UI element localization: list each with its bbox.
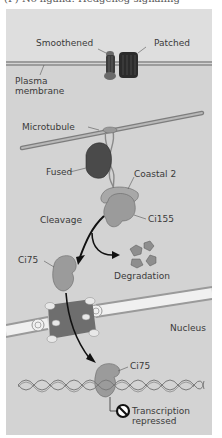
- degradation-arrow: [92, 233, 112, 255]
- label-ci75-nucleus: Ci75: [130, 361, 150, 371]
- label-ci155: Ci155: [148, 214, 174, 224]
- label-fused: Fused: [46, 167, 72, 177]
- label-transcription: Transcription: [132, 406, 190, 416]
- degraded-fragments: [130, 241, 156, 268]
- no-symbol-icon: [117, 405, 129, 417]
- label-nucleus: Nucleus: [170, 323, 206, 333]
- label-degradation: Degradation: [114, 271, 170, 281]
- label-repressed: repressed: [132, 416, 176, 426]
- fused-protein: [86, 143, 111, 178]
- diagram-panel: Smoothened Patched Plasma membrane Micro…: [6, 9, 212, 435]
- label-membrane: membrane: [15, 86, 64, 96]
- label-coastal2: Coastal 2: [134, 169, 176, 179]
- label-cleavage: Cleavage: [40, 215, 82, 225]
- label-patched: Patched: [154, 38, 190, 48]
- label-ci75-cytoplasm: Ci75: [18, 255, 38, 265]
- nuclear-pore: [45, 298, 99, 343]
- ci75-cytoplasmic: [53, 256, 76, 291]
- label-microtubule: Microtubule: [22, 122, 75, 132]
- pathway-illustration: [6, 9, 212, 435]
- figure-caption: (F) No ligand: Hedgehog signaling: [4, 0, 180, 4]
- label-smoothened: Smoothened: [36, 38, 93, 48]
- label-plasma: Plasma: [15, 76, 47, 86]
- patched-receptor: [119, 52, 138, 78]
